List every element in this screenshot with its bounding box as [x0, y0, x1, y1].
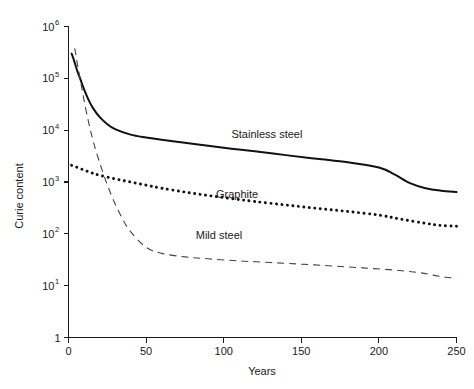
y-tick-label: 1 — [54, 332, 60, 344]
plot-axes — [64, 27, 457, 343]
series-line-graphite — [72, 165, 457, 226]
x-axis-title: Years — [248, 365, 276, 377]
y-tick-label-exponent: 3 — [55, 174, 59, 183]
x-tick-label: 250 — [447, 345, 465, 357]
x-axis-tick-labels: 050100150200250 — [65, 345, 465, 357]
data-series-group — [72, 48, 457, 278]
y-tick-label: 10 — [42, 280, 54, 292]
series-label-graphite: Graphite — [216, 188, 258, 200]
x-axis-tick-marks — [69, 338, 457, 343]
y-tick-label-exponent: 1 — [55, 277, 59, 286]
y-tick-label: 10 — [42, 124, 54, 136]
y-axis-tick-marks — [64, 27, 69, 338]
y-tick-label-exponent: 2 — [55, 225, 59, 234]
y-tick-label-exponent: 5 — [55, 70, 59, 79]
y-tick-label: 10 — [42, 228, 54, 240]
y-tick-label-exponent: 6 — [55, 18, 59, 27]
y-axis-title: Curie content — [13, 163, 25, 228]
y-tick-label: 10 — [42, 72, 54, 84]
x-tick-label: 50 — [140, 345, 152, 357]
x-tick-label: 200 — [370, 345, 388, 357]
x-tick-label: 100 — [215, 345, 233, 357]
y-tick-label-exponent: 4 — [55, 122, 59, 131]
series-line-stainless-steel — [72, 54, 457, 192]
curie-content-decay-chart: 1101102103104105106 050100150200250 Curi… — [0, 0, 474, 389]
y-tick-label: 10 — [42, 176, 54, 188]
series-label-stainless-steel: Stainless steel — [231, 128, 302, 140]
y-axis-tick-labels: 1101102103104105106 — [42, 18, 60, 344]
series-label-mild-steel: Mild steel — [196, 229, 242, 241]
chart-container: 1101102103104105106 050100150200250 Curi… — [0, 0, 474, 389]
axis-lines — [69, 27, 457, 338]
x-tick-label: 0 — [65, 345, 71, 357]
series-line-mild-steel — [75, 48, 457, 278]
series-annotation-labels: Stainless steelGraphiteMild steel — [196, 128, 303, 241]
y-tick-label: 10 — [42, 21, 54, 33]
x-tick-label: 150 — [292, 345, 310, 357]
